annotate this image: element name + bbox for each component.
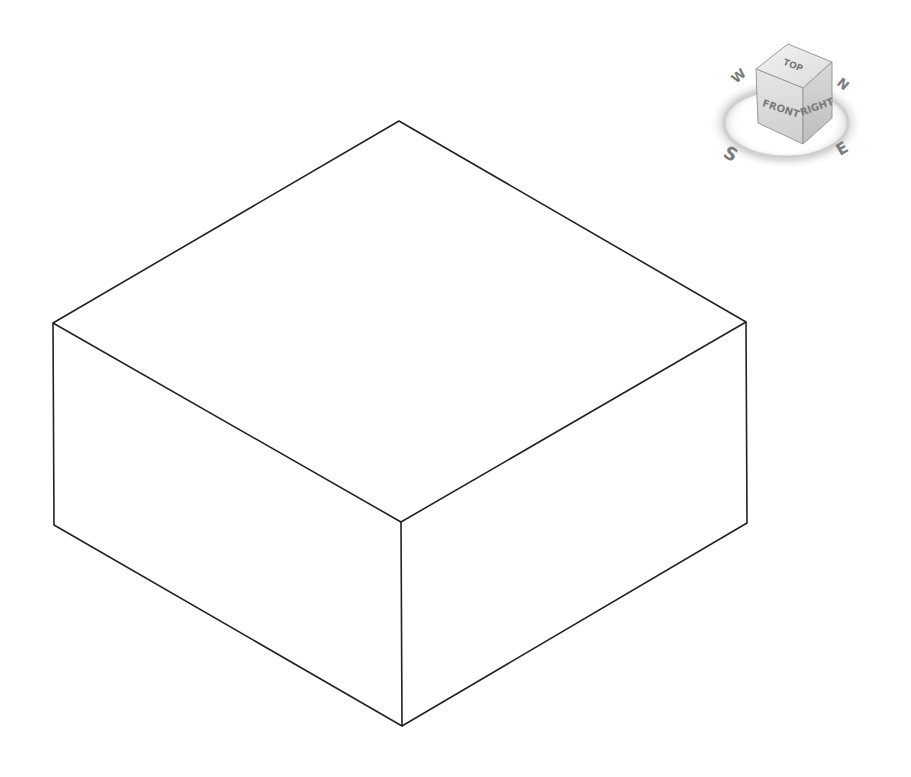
box-right-face: [402, 322, 747, 726]
viewcube[interactable]: TOP FRONT RIGHT S E N W: [700, 28, 880, 178]
compass-west[interactable]: W: [728, 66, 749, 87]
box-left-face: [53, 323, 402, 726]
box-top-face: [53, 121, 746, 522]
